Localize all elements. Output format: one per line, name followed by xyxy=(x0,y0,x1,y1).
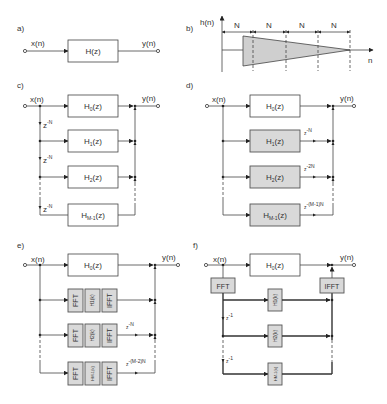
delay-label: z-(M-2)N xyxy=(126,358,146,367)
svg-text:IFFT: IFFT xyxy=(106,327,113,342)
svg-text:H2(z): H2(z) xyxy=(84,173,102,183)
fft-chain-row-1: FFT H1(k) IFFT xyxy=(68,289,117,312)
delay-label: z-1 xyxy=(226,312,233,321)
svg-text:IFFT: IFFT xyxy=(106,365,113,380)
diagram-canvas: a) x(n) H(z) y(n) b) h(n) n N N xyxy=(0,0,387,404)
svg-text:FFT: FFT xyxy=(72,293,79,307)
output-terminal xyxy=(156,49,159,52)
impulse-response-shape xyxy=(243,36,350,66)
panel-c-label: c) xyxy=(17,81,24,90)
panel-b: b) h(n) n N N N N xyxy=(186,16,373,72)
filter-block-label: H(z) xyxy=(85,47,100,56)
svg-text:H1(z): H1(z) xyxy=(266,137,284,147)
delay-label: z-N xyxy=(126,321,134,330)
delay-label: z-N xyxy=(43,119,53,130)
fft-chain-row-3: FFT HM-1(k) IFFT xyxy=(68,362,117,385)
svg-text:FFT: FFT xyxy=(217,283,231,290)
svg-text:H1(z): H1(z) xyxy=(84,137,102,147)
input-label: x(n) xyxy=(31,39,45,48)
input-label: x(n) xyxy=(30,95,44,104)
panel-a-label: a) xyxy=(17,24,24,33)
y-axis-label: h(n) xyxy=(200,18,215,27)
delay-label: z-(M-1)N xyxy=(304,201,324,210)
input-label: x(n) xyxy=(213,255,227,264)
panel-d: d) x(n) H0(z) H1(z) H2(z) HM-1(z) z-N z-… xyxy=(186,81,356,226)
delay-label: z-N xyxy=(43,154,53,165)
input-label: x(n) xyxy=(212,95,226,104)
panel-f-label: f) xyxy=(193,241,198,250)
segment-label: N xyxy=(266,21,272,30)
svg-text:H1(k): H1(k) xyxy=(272,294,278,307)
delay-label: z-2N xyxy=(304,163,315,172)
panel-e: e) x(n) H0(z) FFT H1(k) IFFT FFT H2(k) xyxy=(17,241,180,385)
output-terminal xyxy=(176,263,179,266)
panel-c: c) x(n) z-N z-N z-N H0(z) H1(z) H2(z) HM… xyxy=(17,81,160,226)
x-axis-label: n xyxy=(368,56,372,65)
output-label: y(n) xyxy=(162,253,176,262)
panel-d-label: d) xyxy=(186,81,193,90)
output-terminal xyxy=(352,263,355,266)
input-terminal xyxy=(204,263,207,266)
output-label: y(n) xyxy=(142,94,156,103)
svg-text:FFT: FFT xyxy=(72,328,79,342)
svg-text:IFFT: IFFT xyxy=(325,283,340,290)
output-label: y(n) xyxy=(340,94,354,103)
svg-text:H1(k): H1(k) xyxy=(89,294,95,307)
output-label: y(n) xyxy=(142,39,156,48)
delay-label: z-1 xyxy=(226,355,233,364)
svg-text:H0(z): H0(z) xyxy=(266,102,284,112)
svg-text:H0(z): H0(z) xyxy=(266,261,284,271)
input-label: x(n) xyxy=(31,255,45,264)
input-terminal xyxy=(23,263,26,266)
svg-text:HM-1(k): HM-1(k) xyxy=(90,366,95,381)
svg-text:HM-1(k): HM-1(k) xyxy=(273,366,278,381)
output-terminal xyxy=(352,104,355,107)
segment-label: N xyxy=(299,21,305,30)
svg-text:H0(z): H0(z) xyxy=(84,102,102,112)
panel-a: a) x(n) H(z) y(n) xyxy=(17,24,160,62)
svg-text:FFT: FFT xyxy=(72,366,79,380)
svg-text:H2(z): H2(z) xyxy=(266,173,284,183)
svg-text:H0(z): H0(z) xyxy=(84,261,102,271)
svg-text:H2(k): H2(k) xyxy=(272,330,278,343)
input-terminal xyxy=(23,104,26,107)
svg-text:IFFT: IFFT xyxy=(106,292,113,307)
input-terminal xyxy=(205,104,208,107)
delay-label: z-N xyxy=(304,127,312,136)
delay-label: z-N xyxy=(43,203,53,214)
svg-text:H2(k): H2(k) xyxy=(89,329,95,342)
output-terminal xyxy=(156,104,159,107)
panel-b-label: b) xyxy=(186,24,193,33)
input-terminal xyxy=(23,49,26,52)
fft-chain-row-2: FFT H2(k) IFFT xyxy=(68,324,117,347)
segment-label: N xyxy=(331,21,337,30)
panel-e-label: e) xyxy=(17,241,24,250)
panel-f: f) x(n) H0(z) FFT z-1 z-1 H1(k) H2(k) HM… xyxy=(193,241,356,385)
segment-label: N xyxy=(234,21,240,30)
output-label: y(n) xyxy=(340,253,354,262)
